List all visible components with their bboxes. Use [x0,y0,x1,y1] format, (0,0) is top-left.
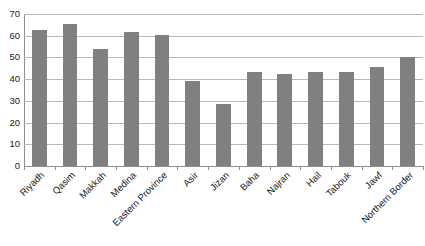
bar[interactable] [339,72,354,166]
bar[interactable] [155,35,170,166]
bar-slot [24,14,55,166]
bar-slot [85,14,116,166]
x-axis-label-hail: Hail [304,170,323,189]
bar-series [24,14,423,166]
bar[interactable] [216,104,231,166]
bar-slot [208,14,239,166]
bar-slot [331,14,362,166]
bar[interactable] [370,67,385,166]
x-axis-label-qasim: Qasim [51,170,77,196]
plot-area [24,14,423,166]
bar-slot [392,14,423,166]
y-axis-label-20: 20 [9,118,20,128]
bar[interactable] [32,30,47,166]
x-axis-label-jizan: Jizan [208,170,231,193]
bar-slot [55,14,86,166]
bar[interactable] [124,32,139,166]
x-axis-label-jawf: Jawf [363,170,384,191]
bar[interactable] [247,72,262,166]
y-axis-label-50: 50 [9,53,20,63]
x-axis-label-baha: Baha [238,170,261,193]
bar[interactable] [93,49,108,166]
bar-slot [239,14,270,166]
bar-slot [177,14,208,166]
y-axis-label-70: 70 [9,9,20,19]
x-axis-label-najran: Najran [265,170,292,197]
bar-slot [362,14,393,166]
y-axis-label-30: 30 [9,96,20,106]
x-axis-label-makkah: Makkah [77,170,108,201]
x-axis-tick-labels: RiyadhQasimMakkahMedinaEastern ProvinceA… [24,168,423,246]
x-axis-label-riyadh: Riyadh [18,170,46,198]
x-axis-label-tabouk: Tabouk [325,170,354,199]
bar[interactable] [308,72,323,166]
bar-chart: 706050403020100 RiyadhQasimMakkahMedinaE… [0,0,425,246]
x-axis-label-asir: Asir [181,170,200,189]
bar-slot [116,14,147,166]
y-axis-label-10: 10 [9,140,20,150]
bar[interactable] [277,74,292,166]
y-axis-tick-labels: 706050403020100 [0,14,20,166]
bar-slot [147,14,178,166]
bar[interactable] [185,81,200,166]
bar-slot [300,14,331,166]
y-axis-label-60: 60 [9,31,20,41]
bar[interactable] [400,57,415,166]
y-axis-label-40: 40 [9,74,20,84]
bar-slot [270,14,301,166]
x-axis-tick [423,166,424,170]
y-axis-label-0: 0 [15,161,20,171]
bar[interactable] [63,24,78,166]
